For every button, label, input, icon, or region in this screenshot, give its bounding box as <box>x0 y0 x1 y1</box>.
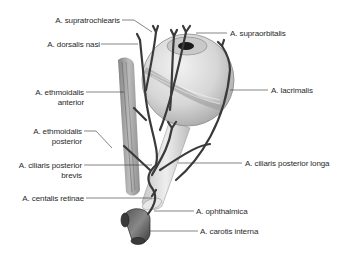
label-centalis-retinae: A. centalis retinae <box>0 194 84 203</box>
muscle <box>118 57 140 195</box>
label-ethmoidalis-anterior-line1: A. ethmoidalis <box>20 88 84 97</box>
label-carotis-interna: A. carotis interna <box>200 227 258 236</box>
label-ciliaris-posterior-brevis-line2: brevis <box>0 171 82 180</box>
label-ophthalmica: A. ophthalmica <box>196 207 248 216</box>
label-ethmoidalis-posterior-line2: posterior <box>18 137 82 146</box>
label-supraorbitalis: A. supraorbitalis <box>230 29 286 38</box>
label-ciliaris-posterior-longa: A. ciliaris posterior longa <box>245 159 329 168</box>
leader-supratrochlearis <box>122 20 152 32</box>
label-dorsalis-nasi: A. dorsalis nasi <box>30 40 100 49</box>
label-ethmoidalis-anterior-line2: anterior <box>20 98 84 107</box>
leader-ethmoidalis-posterior <box>84 131 112 148</box>
label-lacrimalis: A. lacrimalis <box>271 86 313 95</box>
label-ethmoidalis-posterior-line1: A. ethmoidalis <box>18 127 82 136</box>
label-ciliaris-posterior-brevis-line1: A. ciliaris posterior <box>0 161 82 170</box>
carotis-interna-vessel <box>121 209 150 245</box>
label-supratrochlearis: A. supratrochlearis <box>40 16 120 25</box>
